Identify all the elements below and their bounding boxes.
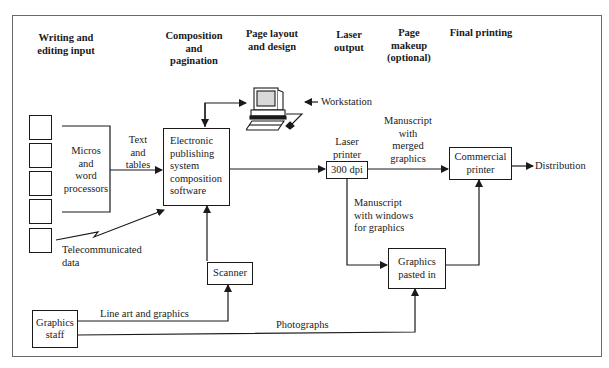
micros-label: Micros and word processors	[62, 145, 110, 195]
graphics-pasted-node: Graphics pasted in	[388, 248, 446, 289]
input-terminal-5	[29, 228, 52, 253]
text-tables-label: Text and tables	[120, 134, 156, 172]
input-terminal-3	[29, 171, 52, 196]
manuscript-merged-label: Manuscript with merged graphics	[376, 115, 440, 165]
input-terminal-1	[29, 115, 52, 140]
distribution-label: Distribution	[535, 160, 586, 173]
input-terminal-4	[29, 199, 52, 224]
laser-300dpi-node: 300 dpi	[326, 161, 368, 179]
photographs-label: Photographs	[276, 319, 329, 332]
computer-workstation-icon	[246, 86, 304, 132]
workstation-label: Workstation	[321, 96, 372, 109]
line-art-label: Line art and graphics	[100, 308, 189, 321]
telecom-label: Telecommunicated data	[62, 244, 142, 269]
scanner-node: Scanner	[207, 262, 253, 285]
commercial-printer-node: Commercial printer	[449, 147, 512, 180]
graphics-staff-node: Graphics staff	[32, 310, 78, 348]
eps-node: Electronic publishing system composition…	[163, 128, 230, 206]
manuscript-windows-label: Manuscript with windows for graphics	[354, 197, 413, 235]
laser-printer-label: Laser printer	[324, 136, 370, 161]
input-terminal-2	[29, 143, 52, 168]
